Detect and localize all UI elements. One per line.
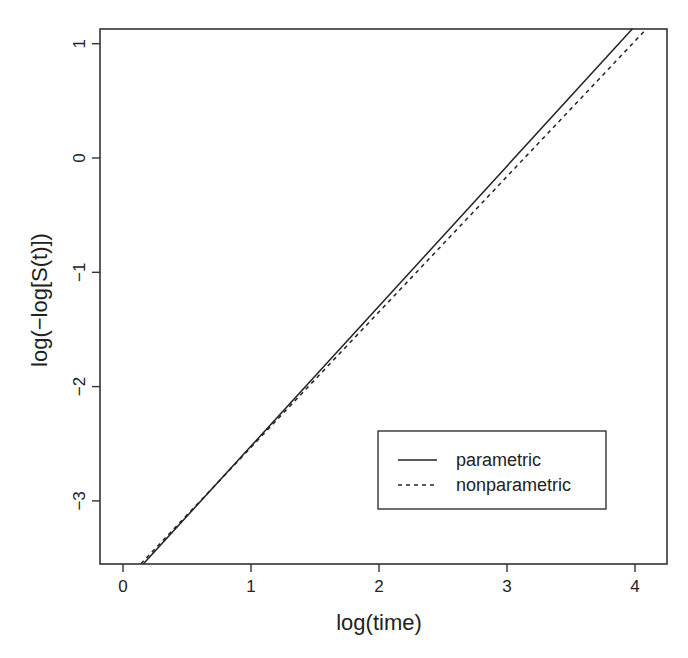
legend-label-nonparametric: nonparametric [456, 475, 571, 495]
y-axis-title: log(−log[S(t)]) [27, 233, 52, 367]
x-tick-label: 3 [502, 577, 511, 596]
y-tick-label: 1 [70, 39, 89, 48]
x-tick-label: 1 [246, 577, 255, 596]
y-tick-label: −3 [70, 491, 89, 510]
x-axis-title: log(time) [336, 610, 422, 635]
legend-box [378, 431, 606, 509]
x-tick-label: 0 [118, 577, 127, 596]
legend: parametric nonparametric [378, 431, 606, 509]
legend-label-parametric: parametric [456, 450, 541, 470]
x-tick-label: 4 [630, 577, 639, 596]
y-axis: −3−2−101 [70, 39, 100, 511]
y-tick-label: −1 [70, 263, 89, 282]
x-axis: 01234 [118, 564, 639, 596]
y-tick-label: −2 [70, 377, 89, 396]
chart-canvas: 01234 −3−2−101 log(time) log(−log[S(t)])… [0, 0, 688, 658]
x-tick-label: 2 [374, 577, 383, 596]
y-tick-label: 0 [70, 153, 89, 162]
